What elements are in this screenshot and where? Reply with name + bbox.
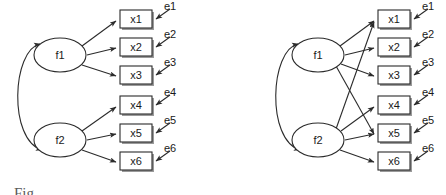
error-e5-label: e5 [422, 114, 434, 126]
indicator-x4-label: x4 [388, 99, 400, 111]
error-e4-label: e4 [422, 86, 434, 98]
cut-off-caption-text: Fig [14, 185, 35, 195]
indicator-x1-label: x1 [388, 13, 400, 25]
error-e1-label: e1 [164, 0, 176, 12]
error-e6-label: e6 [422, 142, 434, 154]
factor-f1-label: f1 [55, 49, 64, 61]
error-e1-label: e1 [422, 0, 434, 12]
error-e2-label: e2 [422, 28, 434, 40]
indicator-x3-label: x3 [130, 69, 142, 81]
indicator-x5-label: x5 [388, 127, 400, 139]
error-e2-label: e2 [164, 28, 176, 40]
indicator-x4-label: x4 [130, 99, 142, 111]
indicator-x2-label: x2 [130, 41, 142, 53]
cut-off-caption: Fig [14, 185, 35, 195]
indicator-x1-label: x1 [130, 13, 142, 25]
error-e3-label: e3 [164, 56, 176, 68]
indicator-x5-label: x5 [130, 127, 142, 139]
factor-f1-label: f1 [313, 49, 322, 61]
error-e5-label: e5 [164, 114, 176, 126]
indicator-x6-label: x6 [388, 155, 400, 167]
indicator-x3-label: x3 [388, 69, 400, 81]
indicator-x2-label: x2 [388, 41, 400, 53]
error-e3-label: e3 [422, 56, 434, 68]
indicator-x6-label: x6 [130, 155, 142, 167]
error-e4-label: e4 [164, 86, 176, 98]
error-e6-label: e6 [164, 142, 176, 154]
factor-f2-label: f2 [55, 134, 64, 146]
factor-f2-label: f2 [313, 134, 322, 146]
sem-path-diagram-figure: f1 f2 x1 x2 x3 x4 x5 x6 e1 e2 e3 e4 e5 [0, 0, 446, 195]
